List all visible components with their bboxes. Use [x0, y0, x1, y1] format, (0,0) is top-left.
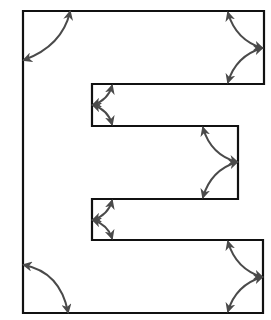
bottom-right-corner-pair-angle-arrow-icon [228, 242, 262, 311]
top-right-corner-pair-angle-arrow-icon [228, 13, 262, 82]
arc-arrow-icon [93, 105, 112, 124]
letter-e-angle-diagram [0, 0, 271, 320]
lower-notch-pair-angle-arrow-icon [93, 201, 112, 238]
arc-arrow-icon [93, 86, 112, 105]
arc-arrow-icon [203, 128, 237, 162]
angle-arrows-group [24, 12, 262, 312]
arc-arrow-icon [228, 48, 262, 82]
arc-arrow-icon [93, 220, 112, 238]
middle-right-pair-angle-arrow-icon [203, 128, 237, 197]
arc-arrow-icon [228, 277, 262, 311]
top-left-corner-angle-arrow-icon [24, 12, 70, 60]
arc-arrow-icon [24, 12, 70, 60]
bottom-left-corner-angle-arrow-icon [24, 265, 68, 312]
e-shape-outline [23, 11, 264, 313]
arc-arrow-icon [24, 265, 68, 312]
diagram-canvas [0, 0, 271, 320]
arc-arrow-icon [203, 162, 237, 197]
arc-arrow-icon [228, 242, 262, 277]
arc-arrow-icon [93, 201, 112, 220]
upper-notch-pair-angle-arrow-icon [93, 86, 112, 124]
arc-arrow-icon [228, 13, 262, 48]
